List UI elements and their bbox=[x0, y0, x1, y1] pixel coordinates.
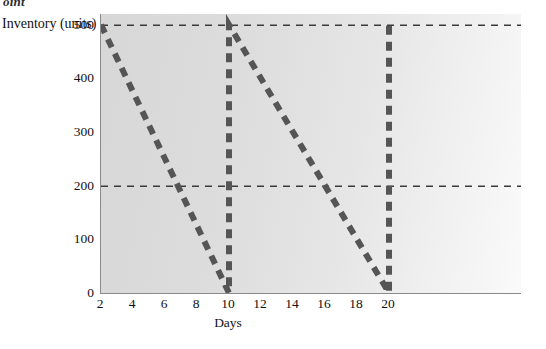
x-tick-14: 14 bbox=[285, 296, 299, 312]
y-tick-0: 0 bbox=[87, 285, 94, 301]
x-axis-title: Days bbox=[0, 315, 546, 331]
inventory-series-group bbox=[101, 25, 389, 293]
x-tick-16: 16 bbox=[317, 296, 331, 312]
x-tick-18: 18 bbox=[349, 296, 363, 312]
y-tick-100: 100 bbox=[74, 231, 94, 247]
cut-off-caption: oint bbox=[3, 0, 25, 6]
plot-svg bbox=[101, 14, 521, 293]
x-axis-title-text: Days bbox=[214, 315, 242, 330]
y-tick-500: 500 bbox=[74, 17, 94, 33]
plot-area bbox=[100, 14, 521, 294]
y-axis-tick-labels: 0100200300400500 bbox=[56, 14, 94, 293]
x-tick-20: 20 bbox=[381, 296, 395, 312]
inventory-sawtooth-chart: oint Inventory (units) 0100200300400500 … bbox=[0, 0, 546, 349]
y-tick-300: 300 bbox=[74, 124, 94, 140]
y-tick-400: 400 bbox=[74, 70, 94, 86]
x-tick-10: 10 bbox=[221, 296, 235, 312]
x-tick-6: 6 bbox=[161, 296, 168, 312]
x-tick-12: 12 bbox=[253, 296, 267, 312]
x-tick-8: 8 bbox=[193, 296, 200, 312]
x-axis-tick-labels: 2468101214161820 bbox=[100, 296, 530, 314]
y-tick-200: 200 bbox=[74, 178, 94, 194]
x-tick-2: 2 bbox=[97, 296, 104, 312]
x-tick-4: 4 bbox=[129, 296, 136, 312]
series-inventory-level bbox=[101, 25, 389, 293]
